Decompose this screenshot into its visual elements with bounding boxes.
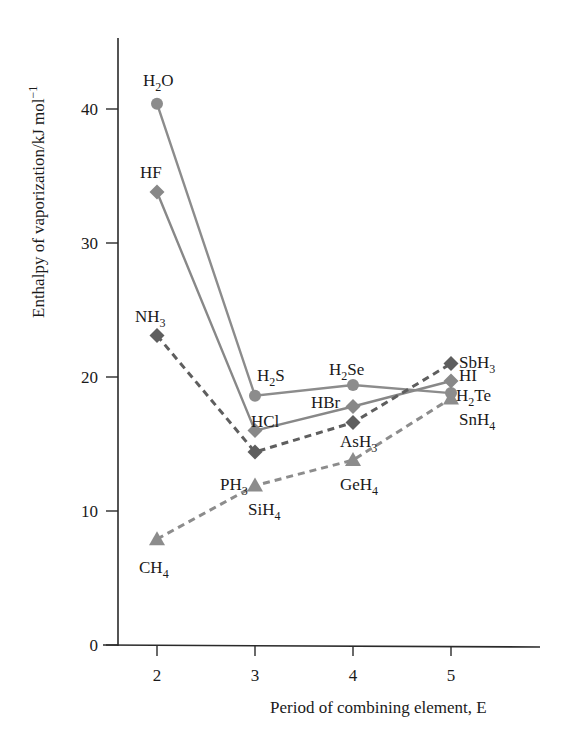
label-ash3: AsH3 xyxy=(340,432,377,455)
label-h2te: H2Te xyxy=(456,386,491,409)
marker-sbh3-diamond-icon xyxy=(444,356,459,371)
series-ch4 xyxy=(149,390,459,545)
y-tick-label: 40 xyxy=(81,100,98,119)
marker-h2o-circle-icon xyxy=(151,98,163,110)
y-tick-label: 30 xyxy=(81,234,98,253)
series-line xyxy=(157,335,451,452)
x-tick-label: 4 xyxy=(349,666,358,685)
marker-geh4-triangle-icon xyxy=(345,452,361,466)
x-tick-label: 5 xyxy=(447,666,456,685)
marker-h2s-circle-icon xyxy=(249,390,261,402)
label-hf: HF xyxy=(140,163,162,182)
point-labels: H2OH2SH2SeH2TeHFHClHBrHINH3PH3AsH3SbH3CH… xyxy=(135,71,495,582)
label-h2se: H2Se xyxy=(329,360,364,383)
y-tick-label: 0 xyxy=(90,636,99,655)
chart-canvas: 0102030402345 H2OH2SH2SeH2TeHFHClHBrHINH… xyxy=(0,0,574,737)
label-nh3: NH3 xyxy=(135,307,166,330)
label-h2o: H2O xyxy=(143,71,174,94)
label-ch4: CH4 xyxy=(139,558,169,581)
marker-sih4-triangle-icon xyxy=(247,478,263,492)
label-sih4: SiH4 xyxy=(248,500,280,523)
label-snh4: SnH4 xyxy=(459,410,495,433)
series-line xyxy=(157,192,451,431)
marker-h2se-circle-icon xyxy=(347,379,359,391)
enthalpy-vaporization-chart: 0102030402345 H2OH2SH2SeH2TeHFHClHBrHINH… xyxy=(0,0,574,737)
label-geh4: GeH4 xyxy=(340,475,378,498)
x-tick-label: 3 xyxy=(251,666,260,685)
series-nh3 xyxy=(150,328,459,460)
marker-hbr-diamond-icon xyxy=(346,399,361,414)
x-axis-line xyxy=(103,645,540,647)
x-tick-label: 2 xyxy=(153,666,162,685)
y-tick-label: 20 xyxy=(81,368,98,387)
label-hbr: HBr xyxy=(311,393,341,412)
y-axis-title: Enthalpy of vaporization/kJ mol−1 xyxy=(26,86,48,318)
x-axis-title: Period of combining element, E xyxy=(270,698,487,717)
y-tick-label: 10 xyxy=(81,502,98,521)
series-line xyxy=(157,104,451,396)
label-ph3: PH3 xyxy=(220,475,248,498)
marker-ch4-triangle-icon xyxy=(149,531,165,545)
series-group xyxy=(149,98,459,546)
series-h2o xyxy=(151,98,457,402)
label-h2s: H2S xyxy=(257,366,285,389)
marker-ash3-diamond-icon xyxy=(346,415,361,430)
label-hcl: HCl xyxy=(251,412,280,431)
marker-hf-diamond-icon xyxy=(150,185,165,200)
